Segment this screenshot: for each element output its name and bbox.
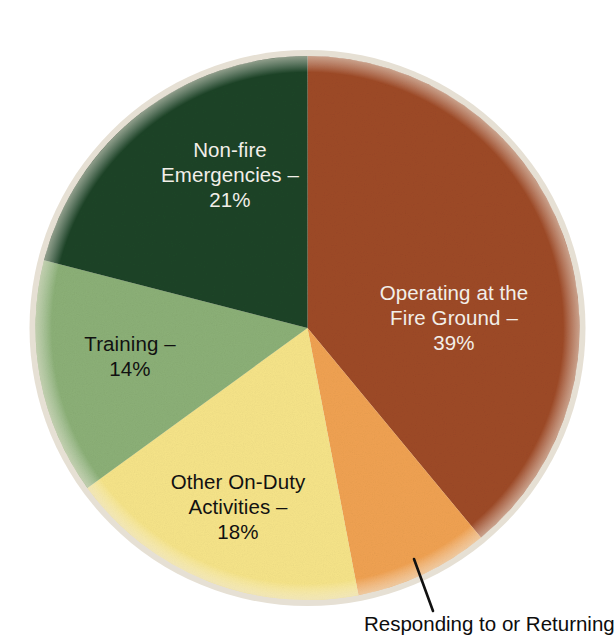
pie-chart: Operating at the Fire Ground – 39% Non-f… bbox=[0, 0, 615, 644]
pie-edge-highlight bbox=[36, 56, 580, 600]
pie-svg bbox=[0, 0, 615, 644]
